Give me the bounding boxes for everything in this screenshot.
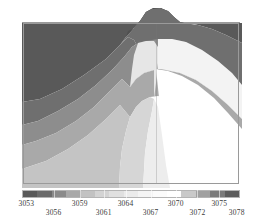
contour-plot-panel[interactable]	[22, 22, 240, 185]
colorbar-segment-8	[138, 191, 152, 197]
colorbar-segment-10	[167, 191, 181, 197]
colorbar-container[interactable]	[22, 190, 240, 198]
colorbar-segment-14	[225, 191, 239, 197]
colorbar-label-3056: 3056	[46, 208, 62, 217]
figure-root: 3053305930643070307530563061306730723078	[0, 0, 262, 223]
colorbar-segment-1	[37, 191, 51, 197]
colorbar-segment-4	[81, 191, 95, 197]
colorbar-segment-5	[95, 191, 109, 197]
colorbar-segment-11	[181, 191, 195, 197]
colorbar-segment-9	[153, 191, 167, 197]
colorbar-label-3070: 3070	[168, 199, 184, 208]
colorbar-segment-7	[124, 191, 138, 197]
colorbar-segment-12	[196, 191, 210, 197]
colorbar-label-3072: 3072	[190, 208, 206, 217]
colorbar-segment-13	[210, 191, 224, 197]
colorbar-segment-2	[52, 191, 66, 197]
colorbar-segment-3	[66, 191, 80, 197]
colorbar-segment-0	[23, 191, 37, 197]
colorbar-segment-6	[109, 191, 123, 197]
colorbar-label-3075: 3075	[211, 199, 227, 208]
colorbar-label-3059: 3059	[72, 199, 88, 208]
colorbar-label-3078: 3078	[229, 208, 245, 217]
contour-field	[22, 7, 242, 188]
colorbar-label-3061: 3061	[96, 208, 112, 217]
colorbar-label-3067: 3067	[143, 208, 159, 217]
colorbar[interactable]	[22, 190, 240, 198]
colorbar-tick-labels: 3053305930643070307530563061306730723078	[0, 199, 262, 223]
colorbar-label-3064: 3064	[118, 199, 134, 208]
colorbar-label-3053: 3053	[18, 199, 34, 208]
